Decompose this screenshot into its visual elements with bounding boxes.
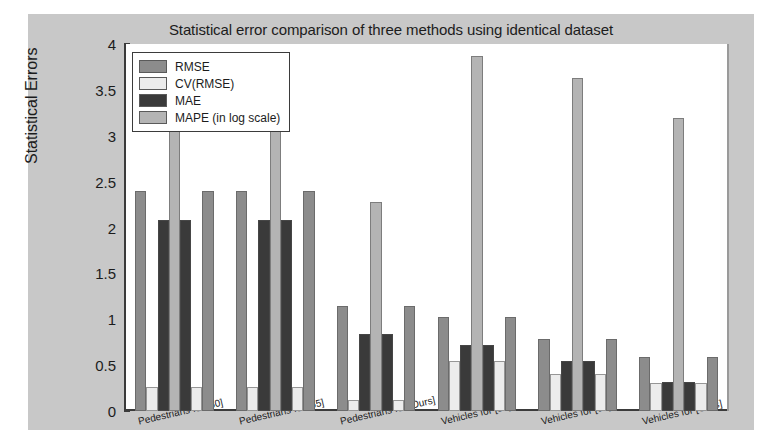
bar-mae (359, 334, 370, 411)
legend-item: RMSE (139, 58, 280, 75)
y-tick-label: 3.5 (95, 81, 116, 98)
y-axis-ticks: 00.511.522.533.54 (28, 14, 124, 381)
bar-rmse (303, 191, 314, 411)
bar-rmse (505, 317, 516, 412)
bar-group (639, 44, 718, 411)
bar-rmse (337, 306, 348, 412)
legend-item: CV(RMSE) (139, 75, 280, 92)
legend-item-label: MAE (175, 94, 201, 108)
bar-mae (258, 220, 269, 411)
bar-cv (247, 387, 258, 411)
y-tick-label: 3 (108, 127, 116, 144)
bar-mape (370, 202, 381, 411)
chart-title: Statistical error comparison of three me… (28, 21, 754, 38)
bar-mae (460, 345, 471, 411)
legend-swatch-icon (139, 94, 167, 107)
bar-mape (673, 118, 684, 411)
bar-cv (449, 361, 460, 411)
bar-cv (393, 400, 404, 411)
bar-cv (595, 374, 606, 411)
bar-rmse (404, 306, 415, 412)
bar-mape (270, 129, 281, 411)
bar-cv (348, 400, 359, 411)
bar-group (438, 44, 517, 411)
bar-rmse (202, 191, 213, 411)
bar-rmse (135, 191, 146, 411)
y-tick-label: 1 (108, 311, 116, 328)
legend-swatch-icon (139, 77, 167, 90)
legend-swatch-icon (139, 111, 167, 124)
bar-cv (695, 383, 706, 411)
bar-cv (550, 374, 561, 411)
bar-cv (494, 361, 505, 411)
bar-mape (169, 128, 180, 411)
legend-item-label: MAPE (in log scale) (175, 111, 280, 125)
legend-item: MAE (139, 92, 280, 109)
bar-mae (158, 220, 169, 411)
bar-cv (191, 387, 202, 411)
bar-cv (146, 387, 157, 411)
bar-mae (561, 361, 572, 411)
bar-mape (572, 78, 583, 411)
bar-mae (382, 334, 393, 411)
y-tick-label: 2 (108, 219, 116, 236)
bar-group (337, 44, 416, 411)
bar-mae (180, 220, 191, 411)
y-tick-label: 0 (108, 403, 116, 420)
bar-mae (684, 382, 695, 411)
legend-item-label: RMSE (175, 60, 210, 74)
chart-legend: RMSECV(RMSE)MAEMAPE (in log scale) (132, 52, 290, 132)
bar-rmse (538, 339, 549, 411)
legend-item-label: CV(RMSE) (175, 77, 234, 91)
bar-mae (483, 345, 494, 411)
bar-cv (292, 387, 303, 411)
bar-mae (281, 220, 292, 411)
bar-mae (583, 361, 594, 411)
bar-cv (650, 383, 661, 411)
bar-rmse (606, 339, 617, 411)
bar-mape (471, 56, 482, 411)
figure-canvas: Statistical error comparison of three me… (28, 14, 754, 430)
bar-rmse (236, 191, 247, 411)
bar-rmse (707, 357, 718, 411)
legend-item: MAPE (in log scale) (139, 109, 280, 126)
bar-rmse (438, 317, 449, 412)
y-tick-label: 4 (108, 36, 116, 53)
bar-group (538, 44, 617, 411)
y-tick-label: 2.5 (95, 173, 116, 190)
y-tick-label: 0.5 (95, 357, 116, 374)
bar-rmse (639, 357, 650, 411)
y-tick-label: 1.5 (95, 265, 116, 282)
legend-swatch-icon (139, 60, 167, 73)
bar-mae (662, 382, 673, 411)
